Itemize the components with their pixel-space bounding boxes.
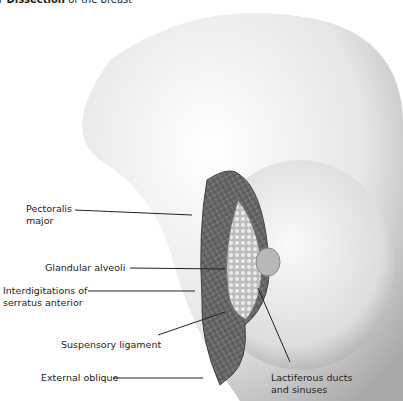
label-pectoralis-major: Pectoralismajor bbox=[26, 203, 72, 227]
breast-anatomy-diagram: r Dissection of the breast bbox=[0, 0, 403, 401]
label-external-oblique: External oblique bbox=[41, 372, 118, 384]
label-suspensory-ligament: Suspensory ligament bbox=[61, 339, 161, 351]
label-lactiferous-ducts: Lactiferous ductsand sinuses bbox=[271, 372, 352, 396]
label-serratus-anterior: Interdigitations ofserratus anterior bbox=[3, 285, 87, 309]
label-glandular-alveoli: Glandular alveoli bbox=[45, 262, 125, 274]
